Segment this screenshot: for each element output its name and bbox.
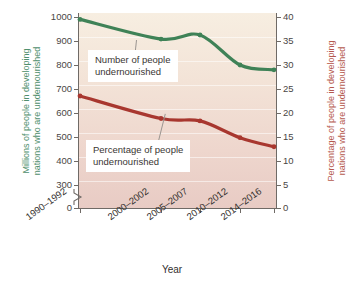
- left-axis-ticklabel: 1000: [51, 12, 72, 22]
- x-axis-title: Year: [0, 264, 344, 275]
- left-axis-tick: [74, 208, 78, 209]
- gridline: [78, 85, 276, 86]
- plot-area: [78, 13, 276, 209]
- bottom-axis-line: [78, 208, 277, 209]
- green-callout-line2: undernourished: [95, 66, 171, 78]
- gridline: [78, 133, 276, 134]
- left-axis-title-line1: Millions of people in developing: [21, 21, 32, 201]
- left-axis-title-line2: nations who are undernourished: [32, 21, 43, 201]
- right-axis-ticklabel: 25: [283, 84, 294, 94]
- gridline: [78, 37, 276, 38]
- left-axis-ticklabel: 700: [56, 84, 72, 94]
- right-axis-tick: [277, 208, 281, 209]
- right-axis-tick: [277, 161, 281, 162]
- red-callout-label: Percentage of people undernourished: [86, 140, 190, 172]
- right-axis-ticklabel: 20: [283, 108, 294, 118]
- right-axis-line: [276, 13, 277, 209]
- left-axis-tick: [74, 17, 78, 18]
- left-axis-tick: [74, 113, 78, 114]
- right-axis-tick: [277, 65, 281, 66]
- right-axis-tick: [277, 137, 281, 138]
- left-axis-tick: [74, 161, 78, 162]
- x-axis-tick: [274, 209, 275, 213]
- right-axis-ticklabel: 40: [283, 12, 294, 22]
- left-axis-tick: [74, 65, 78, 66]
- right-axis-tick: [277, 17, 281, 18]
- red-callout-line1: Percentage of people: [93, 144, 183, 156]
- right-axis-tick: [277, 41, 281, 42]
- gridline: [78, 109, 276, 110]
- right-axis-title-line1: Percentage of people in developing: [326, 21, 337, 201]
- left-axis-tick: [74, 41, 78, 42]
- left-axis-ticklabel: 900: [56, 36, 72, 46]
- right-axis-ticklabel: 0: [283, 203, 288, 213]
- left-axis-line: [78, 13, 79, 209]
- axis-break-icon: [72, 189, 84, 205]
- left-axis-ticklabel: 600: [56, 108, 72, 118]
- left-axis-ticklabel: 400: [56, 156, 72, 166]
- right-axis-ticklabel: 15: [283, 132, 294, 142]
- right-axis-title: Percentage of people in developing natio…: [326, 21, 348, 201]
- right-axis-ticklabel: 5: [283, 180, 288, 190]
- left-axis-ticklabel: 800: [56, 60, 72, 70]
- left-axis-title: Millions of people in developing nations…: [21, 21, 43, 201]
- right-axis-ticklabel: 30: [283, 60, 294, 70]
- gridline: [78, 181, 276, 182]
- left-axis-ticklabel: 500: [56, 132, 72, 142]
- right-axis-tick: [277, 89, 281, 90]
- green-callout-line1: Number of people: [95, 54, 171, 66]
- red-callout-line2: undernourished: [93, 156, 183, 168]
- green-callout-label: Number of people undernourished: [88, 50, 178, 82]
- right-axis-tick: [277, 185, 281, 186]
- right-axis-title-line2: nations who are undernourished: [337, 21, 348, 201]
- left-axis-tick: [74, 137, 78, 138]
- x-axis-tick: [80, 209, 81, 213]
- left-axis-tick: [74, 89, 78, 90]
- left-axis-tick: [74, 185, 78, 186]
- right-axis-ticklabel: 10: [283, 156, 294, 166]
- right-axis-tick: [277, 113, 281, 114]
- right-axis-ticklabel: 35: [283, 36, 294, 46]
